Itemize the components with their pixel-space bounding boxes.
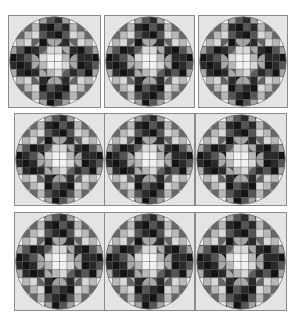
quarter-circle-tile-motif xyxy=(196,213,286,310)
pattern-panel-r2-c1 xyxy=(14,113,105,206)
quarter-circle-tile-motif xyxy=(15,213,104,310)
pattern-panel-r3-c2 xyxy=(104,212,195,311)
quarter-circle-tile-motif xyxy=(105,16,194,107)
quarter-circle-tile-motif xyxy=(105,114,194,205)
quarter-circle-tile-motif xyxy=(15,114,104,205)
pattern-panel-r3-c1 xyxy=(14,212,105,311)
pattern-panel-r2-c3 xyxy=(195,113,287,206)
quarter-circle-tile-motif xyxy=(199,16,287,107)
quarter-circle-tile-motif xyxy=(105,213,194,310)
quarter-circle-tile-motif xyxy=(9,16,100,107)
pattern-panel-r1-c2 xyxy=(104,15,195,108)
pattern-panel-r3-c3 xyxy=(195,212,287,311)
quarter-circle-tile-motif xyxy=(196,114,286,205)
pattern-panel-r1-c1 xyxy=(8,15,101,108)
pattern-panel-r1-c3 xyxy=(198,15,288,108)
pattern-panel-r2-c2 xyxy=(104,113,195,206)
